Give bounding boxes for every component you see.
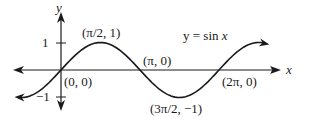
equation-prefix: y = sin [183, 28, 222, 43]
point-pi-label: (π, 0) [143, 53, 171, 68]
y-axis-label: y [54, 0, 62, 15]
sine-graph: y x 1 −1 y = sin x (0, 0) (π/2, 1) (π, 0… [0, 0, 309, 125]
point-max-label: (π/2, 1) [82, 25, 120, 40]
tick-label-pos: 1 [42, 35, 49, 50]
equation-var: x [221, 28, 228, 43]
x-axis-label: x [285, 62, 292, 77]
equation-label: y = sin x [183, 28, 228, 43]
tick-label-neg: −1 [36, 89, 50, 104]
point-origin-label: (0, 0) [64, 74, 92, 89]
point-2pi-label: (2π, 0) [222, 74, 257, 89]
point-min-label: (3π/2, −1) [150, 101, 202, 116]
